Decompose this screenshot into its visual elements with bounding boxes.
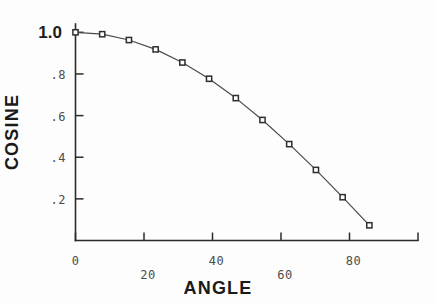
y-axis <box>76 24 84 241</box>
data-point-marker <box>367 223 372 228</box>
y-axis-title: COSINE <box>2 94 22 170</box>
x-tick-label: 0 <box>72 254 80 268</box>
data-point-marker <box>100 32 105 37</box>
data-point-marker <box>260 117 265 122</box>
cosine-curve <box>76 32 370 225</box>
data-point-marker <box>206 76 211 81</box>
x-tick-label: 20 <box>140 268 155 282</box>
x-axis <box>76 233 419 241</box>
y-axis-tick-labels: 1.0.8.6.4.2 <box>38 23 66 207</box>
data-point-marker <box>340 195 345 200</box>
y-tick-label: .4 <box>51 151 66 165</box>
cosine-line-chart: 1.0.8.6.4.2 020406080 ANGLE COSINE <box>0 0 436 303</box>
y-tick-label: .6 <box>51 110 66 124</box>
x-tick-label: 80 <box>346 254 361 268</box>
cosine-data-markers <box>73 30 372 228</box>
data-point-marker <box>153 47 158 52</box>
chart-screenshot: 1.0.8.6.4.2 020406080 ANGLE COSINE <box>0 0 436 303</box>
y-tick-label: .2 <box>51 193 66 207</box>
data-point-marker <box>287 142 292 147</box>
data-point-marker <box>313 167 318 172</box>
x-tick-label: 60 <box>277 268 292 282</box>
y-tick-label: 1.0 <box>38 23 62 42</box>
x-axis-ticks <box>76 233 419 241</box>
data-point-marker <box>180 60 185 65</box>
x-tick-label: 40 <box>209 254 224 268</box>
data-point-marker <box>126 37 131 42</box>
y-axis-ticks <box>76 32 84 199</box>
x-axis-title: ANGLE <box>184 278 253 298</box>
data-point-marker <box>233 96 238 101</box>
y-tick-label: .8 <box>51 68 66 82</box>
data-point-marker <box>73 30 78 35</box>
